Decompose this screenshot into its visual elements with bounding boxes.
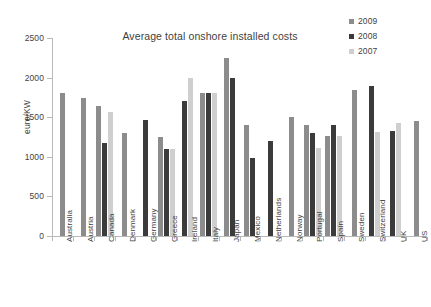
legend-swatch-icon	[349, 19, 354, 24]
bar-greece-2008	[164, 149, 169, 236]
bar-group-ireland	[177, 38, 198, 236]
bar-norway-2009	[289, 117, 294, 236]
bar-portugal-2009	[304, 125, 309, 236]
x-axis-label-uk: UK	[399, 231, 408, 242]
bar-uk-2008	[390, 131, 395, 236]
bar-canada-2009	[96, 106, 101, 236]
bar-chart: 200920082007 Average total onshore insta…	[0, 0, 431, 307]
x-axis-label-portugal: Portugal	[315, 211, 324, 242]
x-axis-label-denmark: Denmark	[128, 209, 137, 242]
bar-italy-2008	[206, 93, 211, 236]
bar-greece-2009	[158, 137, 163, 236]
bar-group-greece	[156, 38, 177, 236]
bar-netherlands-2008	[268, 141, 273, 236]
bar-uk-2007	[396, 123, 401, 236]
x-axis-label-italy: Italy	[211, 227, 220, 242]
x-axis-label-sweden: Sweden	[357, 212, 366, 242]
plot-area: 05001000150020002500	[52, 38, 427, 237]
x-axis-label-greece: Greece	[170, 215, 179, 242]
x-axis-label-us: US	[420, 231, 429, 242]
bar-austria-2009	[81, 98, 86, 236]
bar-ireland-2008	[182, 101, 187, 236]
x-axis-label-mexico: Mexico	[253, 216, 262, 242]
x-axis-label-netherlands: Netherlands	[274, 198, 283, 242]
legend-label: 2009	[358, 17, 377, 26]
legend-item-2009: 2009	[349, 14, 419, 29]
x-axis-label-norway: Norway	[295, 214, 304, 242]
y-axis-tick-label: 2500	[4, 33, 44, 43]
bar-group-germany	[135, 38, 156, 236]
bar-group-japan	[219, 38, 240, 236]
bar-group-portugal	[302, 38, 323, 236]
x-axis-label-switzerland: Switzerland	[378, 200, 387, 242]
bar-group-denmark	[115, 38, 136, 236]
bar-italy-2007	[212, 93, 217, 236]
bar-canada-2008	[102, 143, 107, 236]
bar-spain-2008	[331, 125, 336, 236]
bar-switzerland-2008	[369, 86, 374, 236]
x-axis-label-spain: Spain	[336, 221, 345, 242]
bar-group-canada	[94, 38, 115, 236]
x-axis-tick	[52, 237, 53, 241]
x-axis-label-japan: Japan	[232, 220, 241, 242]
bar-japan-2008	[230, 78, 235, 236]
bar-group-australia	[52, 38, 73, 236]
bar-us-2009	[414, 121, 419, 236]
x-axis-label-austria: Austria	[86, 216, 95, 242]
bar-group-austria	[73, 38, 94, 236]
bar-group-us	[406, 38, 427, 236]
x-axis-label-australia: Australia	[65, 210, 74, 242]
bar-group-sweden	[344, 38, 365, 236]
y-axis-tick-label: 2000	[4, 73, 44, 83]
bar-mexico-2009	[244, 125, 249, 236]
bar-japan-2009	[224, 58, 229, 236]
bar-sweden-2009	[352, 90, 357, 236]
y-axis-tick-label: 0	[4, 231, 44, 241]
bar-group-mexico	[240, 38, 261, 236]
bar-group-uk	[385, 38, 406, 236]
x-axis-label-germany: Germany	[149, 208, 158, 242]
bar-italy-2009	[200, 93, 205, 236]
bar-germany-2008	[143, 120, 148, 236]
bar-group-spain	[323, 38, 344, 236]
y-axis-tick-label: 500	[4, 191, 44, 201]
bar-group-italy	[198, 38, 219, 236]
bar-denmark-2009	[122, 133, 127, 236]
x-axis-label-canada: Canada	[107, 213, 116, 242]
bar-spain-2009	[325, 136, 330, 236]
y-axis-tick-label: 1500	[4, 112, 44, 122]
bar-ireland-2007	[188, 78, 193, 236]
bar-group-norway	[281, 38, 302, 236]
x-axis-label-ireland: Ireland	[190, 217, 199, 242]
y-axis-tick-label: 1000	[4, 152, 44, 162]
